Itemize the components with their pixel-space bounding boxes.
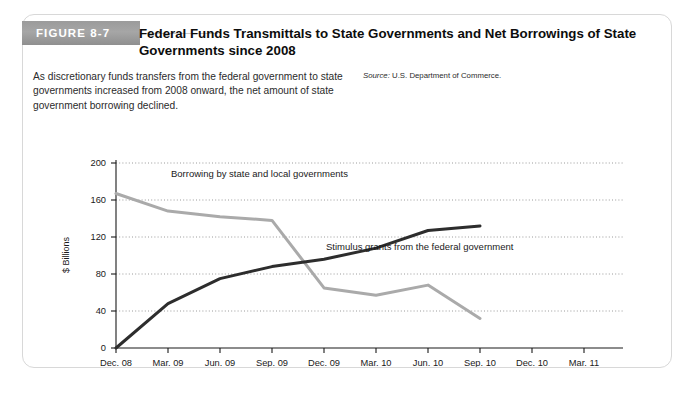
- x-tick-label: Mar. 11: [569, 358, 599, 367]
- y-tick-labels: 200 160 120 80 40 0: [90, 158, 106, 353]
- y-tick-label: 80: [96, 269, 106, 279]
- figure-card: FIGURE 8-7 Federal Funds Transmittals to…: [22, 14, 672, 368]
- x-tick-label: Jun. 10: [413, 358, 444, 367]
- x-tick-labels: Dec. 08 Mar. 09 Jun. 09 Sep. 09 Dec. 09 …: [100, 358, 599, 367]
- y-tick-label: 200: [90, 158, 106, 168]
- y-axis: [111, 160, 116, 348]
- series-line-borrowing: [116, 194, 480, 319]
- y-tick-label: 120: [90, 232, 106, 242]
- x-axis: [116, 348, 623, 353]
- figure-source-note: Source: U.S. Department of Commerce.: [363, 71, 501, 80]
- y-axis-title: $ Billions: [61, 236, 71, 273]
- x-tick-label: Sep. 10: [464, 358, 496, 367]
- figure-title: Federal Funds Transmittals to State Gove…: [139, 25, 649, 59]
- series-annotation-stimulus: Stimulus grants from the federal governm…: [326, 241, 514, 252]
- figure-description: As discretionary funds transfers from th…: [33, 70, 343, 113]
- x-tick-label: Dec. 09: [308, 358, 340, 367]
- line-chart-svg: 200 160 120 80 40 0 $ Billions: [23, 127, 673, 367]
- chart-area: 200 160 120 80 40 0 $ Billions: [23, 127, 673, 367]
- figure-number-badge: FIGURE 8-7: [22, 21, 140, 45]
- x-tick-label: Dec. 08: [100, 358, 132, 367]
- x-tick-label: Sep. 09: [256, 358, 288, 367]
- source-label: Source:: [363, 71, 390, 80]
- x-tick-label: Mar. 09: [152, 358, 183, 367]
- source-value: U.S. Department of Commerce.: [392, 71, 501, 80]
- gridlines: [116, 163, 623, 311]
- x-tick-label: Mar. 10: [360, 358, 391, 367]
- x-tick-label: Dec. 10: [516, 358, 548, 367]
- x-tick-label: Jun. 09: [205, 358, 236, 367]
- series-annotation-borrowing: Borrowing by state and local governments: [171, 168, 348, 179]
- y-tick-label: 0: [101, 343, 106, 353]
- y-tick-label: 160: [90, 195, 106, 205]
- y-tick-label: 40: [96, 306, 106, 316]
